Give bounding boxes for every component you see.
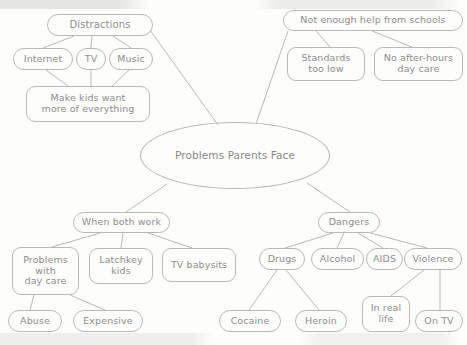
node-center[interactable]: Problems Parents Face: [140, 122, 330, 189]
node-label: On TV: [424, 316, 453, 327]
node-label: Drugs: [268, 254, 297, 265]
node-label: Problems Parents Face: [175, 150, 295, 162]
node-label: TV babysits: [171, 260, 227, 271]
node-ontv[interactable]: On TV: [415, 310, 463, 332]
node-label: Violence: [412, 254, 453, 265]
node-label: Latchkey kids: [99, 255, 143, 276]
node-violence[interactable]: Violence: [404, 248, 462, 270]
node-cocaine[interactable]: Cocaine: [219, 310, 281, 332]
node-label: Alcohol: [320, 254, 355, 265]
node-label: No after-hours day care: [384, 53, 453, 74]
node-tvbabysits[interactable]: TV babysits: [162, 248, 236, 282]
node-label: Standards too low: [301, 53, 350, 74]
edge-bothwork-to-latchkey: [121, 233, 123, 248]
edge-distractions-to-internet: [43, 36, 74, 48]
node-label: Problems with day care: [23, 255, 68, 287]
node-alcohol[interactable]: Alcohol: [311, 248, 364, 270]
node-label: Distractions: [70, 19, 131, 30]
edge-center-to-bothwork: [126, 184, 167, 212]
edge-dangers-to-alcohol: [337, 233, 344, 248]
node-dangers[interactable]: Dangers: [318, 212, 380, 233]
node-heroin[interactable]: Heroin: [295, 310, 347, 332]
node-standards[interactable]: Standards too low: [287, 47, 365, 81]
edge-daycare-to-expensive: [70, 295, 105, 310]
node-makekids[interactable]: Make kids want more of everything: [26, 86, 150, 122]
edge-center-to-dangers: [307, 183, 350, 212]
edge-drugs-to-heroin: [286, 270, 319, 310]
node-abuse[interactable]: Abuse: [8, 310, 62, 332]
node-label: When both work: [82, 217, 161, 228]
node-label: Dangers: [329, 217, 370, 228]
node-afterhours[interactable]: No after-hours day care: [374, 47, 463, 81]
edge-internet-to-makekids: [46, 70, 68, 86]
node-label: In real life: [371, 303, 402, 324]
node-expensive[interactable]: Expensive: [73, 310, 143, 332]
node-inreallife[interactable]: In real life: [362, 296, 410, 332]
node-label: Heroin: [305, 316, 337, 327]
node-label: Cocaine: [231, 316, 270, 327]
node-music[interactable]: Music: [109, 48, 153, 70]
node-schools[interactable]: Not enough help from schools: [283, 10, 463, 31]
edge-bothwork-to-tvbabysits: [148, 233, 192, 248]
node-tv[interactable]: TV: [76, 48, 106, 70]
node-bothwork[interactable]: When both work: [73, 212, 170, 233]
edge-distractions-to-music: [113, 36, 131, 48]
node-label: Internet: [24, 54, 63, 65]
node-label: TV: [85, 54, 98, 65]
edge-schools-to-center: [256, 31, 288, 124]
node-label: Abuse: [20, 316, 50, 327]
edge-drugs-to-cocaine: [249, 270, 277, 310]
edge-schools-to-standards: [316, 31, 330, 47]
edge-violence-to-inreallife: [391, 270, 424, 296]
node-distractions[interactable]: Distractions: [47, 14, 153, 36]
edge-dangers-to-drugs: [285, 233, 333, 248]
node-daycare[interactable]: Problems with day care: [12, 247, 79, 295]
edge-daycare-to-abuse: [30, 295, 34, 310]
node-aids[interactable]: AIDS: [366, 248, 403, 270]
node-label: Make kids want more of everything: [42, 93, 135, 114]
edge-music-to-makekids: [112, 70, 129, 86]
node-label: Not enough help from schools: [300, 15, 445, 26]
edge-distractions-to-center: [150, 30, 218, 125]
node-label: Expensive: [83, 316, 132, 327]
node-internet[interactable]: Internet: [13, 48, 73, 70]
edge-bothwork-to-daycare: [52, 233, 100, 247]
node-drugs[interactable]: Drugs: [259, 248, 305, 270]
node-label: AIDS: [373, 254, 396, 265]
edge-schools-to-afterhours: [372, 31, 412, 47]
mindmap-canvas: Problems Parents FaceDistractionsInterne…: [0, 0, 467, 345]
node-latchkey[interactable]: Latchkey kids: [89, 248, 153, 284]
edge-distractions-to-tv: [91, 36, 92, 48]
node-label: Music: [117, 54, 145, 65]
